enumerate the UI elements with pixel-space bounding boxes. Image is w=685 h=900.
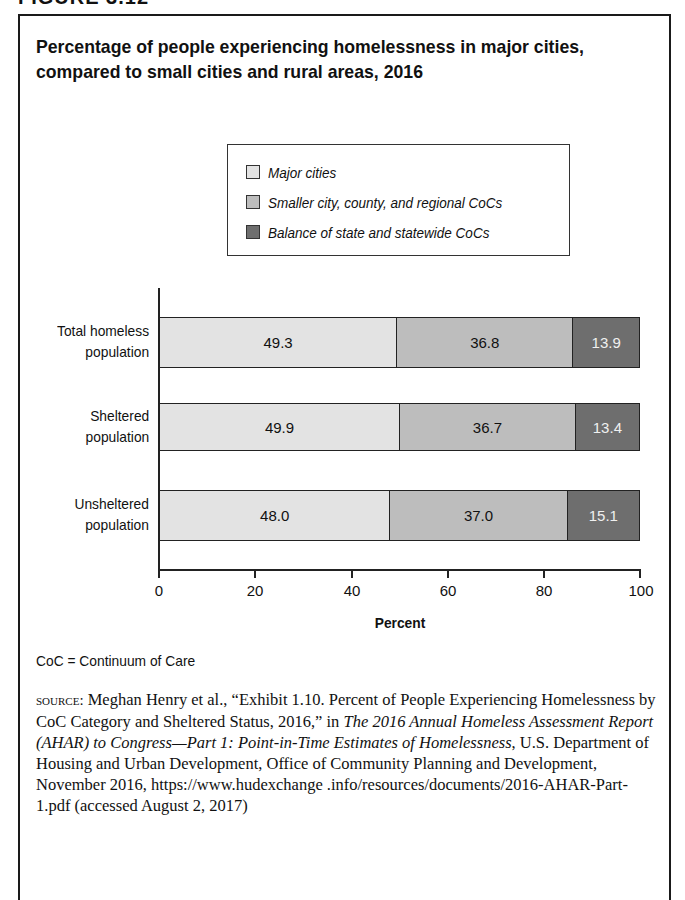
bar-segment-balance-of-state: 13.4: [575, 404, 639, 450]
legend-label: Balance of state and statewide CoCs: [268, 224, 489, 241]
bar-segment-major-cities: 48.0: [160, 491, 389, 540]
x-tick-mark: [351, 570, 353, 578]
x-tick-label: 40: [344, 582, 361, 599]
x-tick-mark: [447, 570, 449, 578]
x-tick-mark: [158, 570, 160, 578]
category-label-line: Unsheltered: [75, 493, 149, 514]
stacked-bar-total: 49.3 36.8 13.9: [159, 317, 640, 368]
category-label-line: Sheltered: [85, 405, 149, 426]
legend-swatch-major-cities: [246, 165, 260, 179]
x-axis-title: Percent: [375, 614, 426, 631]
category-label-line: population: [75, 514, 149, 535]
x-tick-mark: [254, 570, 256, 578]
bar-segment-smaller-city: 36.7: [399, 404, 575, 450]
stacked-bar-unsheltered: 48.0 37.0 15.1: [159, 490, 640, 541]
x-tick-label: 80: [536, 582, 553, 599]
legend-label: Major cities: [268, 164, 336, 181]
legend-item-balance-of-state: Balance of state and statewide CoCs: [246, 222, 514, 242]
bar-segment-major-cities: 49.3: [160, 318, 396, 367]
legend-swatch-balance-of-state: [246, 225, 260, 239]
x-tick-label: 100: [628, 582, 653, 599]
chart-title: Percentage of people experiencing homele…: [36, 34, 594, 84]
bar-segment-major-cities: 49.9: [160, 404, 399, 450]
x-axis-line: [158, 569, 641, 571]
x-tick-mark: [543, 570, 545, 578]
category-label-line: population: [57, 341, 149, 362]
legend-item-smaller-city: Smaller city, county, and regional CoCs: [246, 192, 528, 212]
bar-segment-smaller-city: 37.0: [389, 491, 566, 540]
x-tick-label: 20: [247, 582, 264, 599]
x-tick-label: 0: [155, 582, 163, 599]
bar-segment-balance-of-state: 15.1: [567, 491, 639, 540]
category-label-unsheltered: Unsheltered population: [75, 493, 149, 535]
legend-label: Smaller city, county, and regional CoCs: [268, 194, 502, 211]
x-tick-label: 60: [440, 582, 457, 599]
x-tick-mark: [639, 570, 641, 578]
category-label-line: Total homeless: [57, 320, 149, 341]
legend: Major cities Smaller city, county, and r…: [227, 144, 570, 256]
bar-segment-balance-of-state: 13.9: [572, 318, 639, 367]
figure-label: FIGURE 3.12: [18, 0, 149, 9]
abbreviation-note: CoC = Continuum of Care: [36, 652, 195, 669]
category-label-sheltered: Sheltered population: [85, 405, 149, 447]
legend-item-major-cities: Major cities: [246, 162, 344, 182]
category-label-total: Total homeless population: [57, 320, 149, 362]
source-citation: source: Meghan Henry et al., “Exhibit 1.…: [36, 689, 656, 816]
stacked-bar-sheltered: 49.9 36.7 13.4: [159, 403, 640, 451]
source-prefix: source:: [36, 692, 84, 708]
legend-swatch-smaller-city: [246, 195, 260, 209]
bar-segment-smaller-city: 36.8: [396, 318, 572, 367]
category-label-line: population: [85, 426, 149, 447]
